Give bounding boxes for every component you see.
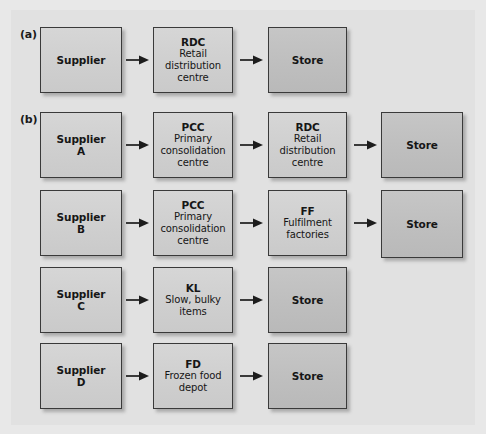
node-b3-supplier-c-code: Supplier <box>57 288 106 301</box>
node-b3-kl-code: KL <box>186 282 201 295</box>
node-b3-store-code: Store <box>292 294 324 307</box>
node-b2-pcc-code: PCC <box>182 199 205 212</box>
arrow-b1-rdc-to-store <box>354 139 378 151</box>
section-label-b: (b) <box>20 114 37 125</box>
arrow-b2-ff-to-store <box>354 217 378 229</box>
arrow-b4-fd-to-store <box>240 370 264 382</box>
node-b3-kl-desc: Slow, bulky items <box>154 294 232 318</box>
node-b1-rdc-code: RDC <box>295 121 319 134</box>
node-a-store-code: Store <box>292 54 324 67</box>
node-b1-supplier-a-code: Supplier <box>57 133 106 146</box>
node-b3-store[interactable]: Store <box>268 267 347 333</box>
node-b4-store-code: Store <box>292 370 324 383</box>
node-b4-supplier-d-code: Supplier <box>57 364 106 377</box>
node-b4-supplier-d[interactable]: Supplier D <box>40 343 122 409</box>
node-b4-store[interactable]: Store <box>268 343 347 409</box>
node-b2-pcc[interactable]: PCC Primary consolidation centre <box>153 190 233 256</box>
node-b2-supplier-b-desc: B <box>77 223 85 236</box>
node-b1-supplier-a[interactable]: Supplier A <box>40 112 122 178</box>
arrow-b1-supplier-to-pcc <box>126 139 150 151</box>
node-b1-store[interactable]: Store <box>381 112 463 178</box>
node-b1-pcc-code: PCC <box>182 121 205 134</box>
node-a-rdc-desc: Retail distribution centre <box>154 48 232 84</box>
node-a-supplier-code: Supplier <box>57 54 106 67</box>
arrow-b4-supplier-to-fd <box>126 370 150 382</box>
node-b1-pcc[interactable]: PCC Primary consolidation centre <box>153 112 233 178</box>
node-b1-supplier-a-desc: A <box>77 145 85 158</box>
node-b3-kl[interactable]: KL Slow, bulky items <box>153 267 233 333</box>
node-b2-store[interactable]: Store <box>381 190 463 258</box>
node-b4-fd-desc: Frozen food depot <box>154 370 232 394</box>
node-a-supplier[interactable]: Supplier <box>40 27 122 93</box>
node-b1-rdc[interactable]: RDC Retail distribution centre <box>268 112 347 178</box>
node-a-store[interactable]: Store <box>268 27 347 93</box>
supply-chain-diagram: (a) Supplier RDC Retail distribution cen… <box>0 0 486 434</box>
arrow-b3-supplier-to-kl <box>126 294 150 306</box>
node-b2-pcc-desc: Primary consolidation centre <box>154 211 232 247</box>
arrow-b2-pcc-to-ff <box>240 217 264 229</box>
node-b3-supplier-c-desc: C <box>77 300 85 313</box>
arrow-a-supplier-to-rdc <box>126 54 150 66</box>
arrow-b2-supplier-to-pcc <box>126 217 150 229</box>
node-b3-supplier-c[interactable]: Supplier C <box>40 267 122 333</box>
node-b4-fd[interactable]: FD Frozen food depot <box>153 343 233 409</box>
node-b1-pcc-desc: Primary consolidation centre <box>154 133 232 169</box>
node-a-rdc[interactable]: RDC Retail distribution centre <box>153 27 233 93</box>
node-b4-supplier-d-desc: D <box>77 376 86 389</box>
node-b2-store-code: Store <box>406 218 438 231</box>
node-b2-ff-code: FF <box>300 205 314 218</box>
node-b1-rdc-desc: Retail distribution centre <box>269 133 346 169</box>
node-b2-supplier-b[interactable]: Supplier B <box>40 190 122 256</box>
node-a-rdc-code: RDC <box>181 36 205 49</box>
node-b2-ff-desc: Fulfilment factories <box>269 217 346 241</box>
node-b2-ff[interactable]: FF Fulfilment factories <box>268 190 347 256</box>
arrow-b3-kl-to-store <box>240 294 264 306</box>
node-b4-fd-code: FD <box>185 358 201 371</box>
arrow-b1-pcc-to-rdc <box>240 139 264 151</box>
arrow-a-rdc-to-store <box>240 54 264 66</box>
node-b2-supplier-b-code: Supplier <box>57 211 106 224</box>
node-b1-store-code: Store <box>406 139 438 152</box>
section-label-a: (a) <box>20 29 37 40</box>
